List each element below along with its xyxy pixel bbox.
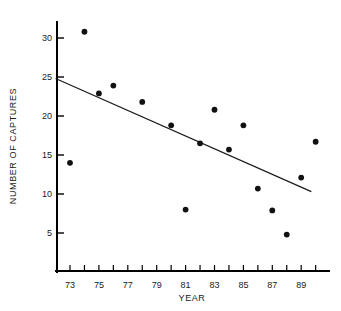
x-tick-label: 77 — [123, 280, 133, 290]
data-point — [212, 107, 218, 113]
y-tick-label: 5 — [47, 228, 52, 238]
x-tick-label: 89 — [296, 280, 306, 290]
x-tick-label: 83 — [209, 280, 219, 290]
y-axis-tick-labels: 51015202530 — [42, 33, 52, 238]
plot-area: 51015202530 737577798183858789 YEAR NUMB… — [0, 0, 341, 311]
data-point — [226, 147, 232, 153]
data-point — [183, 207, 189, 213]
data-point — [110, 83, 116, 89]
data-point — [313, 139, 319, 145]
x-tick-label: 75 — [94, 280, 104, 290]
y-axis-ticks — [57, 38, 64, 233]
x-tick-label: 85 — [238, 280, 248, 290]
x-tick-label: 73 — [65, 280, 75, 290]
y-tick-label: 25 — [42, 72, 52, 82]
data-point — [96, 90, 102, 96]
data-point — [284, 232, 290, 238]
x-tick-label: 81 — [181, 280, 191, 290]
scatter-chart: 51015202530 737577798183858789 YEAR NUMB… — [0, 0, 341, 311]
data-point — [82, 29, 88, 35]
y-tick-label: 20 — [42, 111, 52, 121]
x-axis-title: YEAR — [179, 293, 206, 303]
trend-line — [56, 79, 312, 192]
data-points — [67, 29, 318, 238]
x-axis-tick-labels: 737577798183858789 — [65, 280, 306, 290]
x-tick-label: 87 — [267, 280, 277, 290]
data-point — [241, 122, 247, 128]
y-axis-title: NUMBER OF CAPTURES — [8, 88, 18, 204]
data-point — [67, 160, 73, 166]
data-point — [298, 175, 304, 181]
y-tick-label: 15 — [42, 150, 52, 160]
data-point — [139, 99, 145, 105]
y-tick-label: 10 — [42, 189, 52, 199]
data-point — [269, 207, 275, 213]
data-point — [197, 140, 203, 146]
x-tick-label: 79 — [152, 280, 162, 290]
data-point — [168, 122, 174, 128]
y-tick-label: 30 — [42, 33, 52, 43]
data-point — [255, 186, 261, 192]
